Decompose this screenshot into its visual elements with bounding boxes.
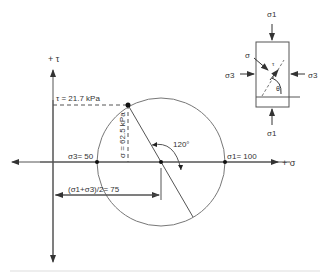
sigma1-bottom-label: σ1	[267, 129, 277, 138]
sigma3-right-label: σ3	[308, 71, 318, 80]
stress-element: σ1 σ1 σ3 σ3 σ τ θ	[225, 10, 318, 138]
sigma-value-label: σ = 62.5 kPa	[118, 112, 127, 158]
sigma1-label: σ1= 100	[227, 152, 257, 161]
angle-label: 120°	[173, 140, 190, 149]
tau-axis-label: + τ	[48, 54, 60, 64]
tau-value-label: τ = 21.7 kPa	[56, 94, 100, 103]
tau-plane-label: τ	[272, 61, 275, 67]
sigma-plane-label: σ	[245, 51, 250, 60]
sigma1-top-label: σ1	[267, 10, 277, 19]
sigma3-label: σ3= 50	[68, 152, 94, 161]
sigma3-point	[95, 160, 99, 164]
sigma-axis-label: + σ	[282, 158, 296, 168]
center-point	[159, 160, 163, 164]
tau-axis: + τ	[48, 54, 60, 262]
mohr-circle-diagram: + τ + σ τ = 21.7 kPa σ = 62.5 kPa σ3= 50…	[0, 0, 329, 273]
stress-point	[126, 103, 131, 108]
sigma3-left-label: σ3	[225, 71, 235, 80]
center-label: (σ1+σ3)/2= 75	[68, 185, 120, 194]
theta-label: θ	[276, 85, 280, 92]
